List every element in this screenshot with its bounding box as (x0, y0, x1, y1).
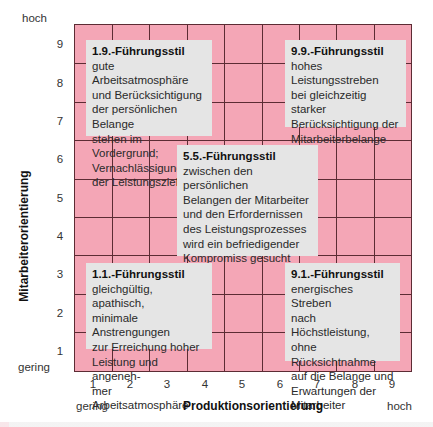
style-line: nach Höchstleistung, (291, 311, 394, 340)
clipped-caption (0, 422, 433, 427)
style-line: gleichgültig, apathisch, (92, 282, 206, 311)
style-line: bei gleichzeitig starker (291, 88, 400, 117)
style-line: gute Arbeitsatmosphäre (92, 59, 206, 88)
x-tick-1: 1 (83, 378, 103, 390)
x-tick-6: 6 (270, 378, 290, 390)
style-line: ohne Rücksichtnahme (291, 340, 394, 369)
x-tick-4: 4 (195, 378, 215, 390)
style-line: der persönlichen Belange (92, 102, 206, 131)
style-title: 9.1.-Führungsstil (291, 267, 394, 282)
y-tick-3: 3 (50, 268, 70, 280)
x-tick-7: 7 (307, 378, 327, 390)
y-axis-low-label: gering (18, 361, 50, 373)
style-line: zur Erreichung hoher (92, 340, 206, 355)
style-line: energisches Streben (291, 282, 394, 311)
x-axis-low-label: gering (76, 400, 108, 412)
style-line: minimale Anstrengungen (92, 311, 206, 340)
style-line: zwischen den persönlichen (183, 164, 312, 193)
y-tick-1: 1 (50, 345, 70, 357)
y-tick-8: 8 (50, 77, 70, 89)
x-tick-9: 9 (382, 378, 402, 390)
x-tick-5: 5 (232, 378, 252, 390)
style-line: hohes Leistungsstreben (291, 59, 400, 88)
style-line: wird ein befriedigender (183, 237, 312, 252)
x-axis-title: Produktionsorientierung (183, 399, 323, 413)
y-tick-6: 6 (50, 153, 70, 165)
style-box-1-9: 1.9.-Führungsstil gute Arbeitsatmosphäre… (86, 40, 212, 136)
style-box-9-1: 9.1.-Führungsstil energisches Streben na… (285, 263, 400, 361)
y-tick-7: 7 (50, 115, 70, 127)
style-line: Berücksichtigung der (291, 117, 400, 132)
style-line: und den Erfordernissen (183, 207, 312, 222)
style-line: Belangen der Mitarbeiter (183, 193, 312, 208)
y-tick-4: 4 (50, 230, 70, 242)
y-tick-2: 2 (50, 307, 70, 319)
style-title: 9.9.-Führungsstil (291, 44, 400, 59)
y-axis-title: Mitarbeiterorientierung (17, 170, 31, 301)
style-title: 1.9.-Führungsstil (92, 44, 206, 59)
x-tick-2: 2 (120, 378, 140, 390)
style-box-5-5: 5.5.-Führungsstil zwischen den persönlic… (177, 145, 318, 256)
x-tick-3: 3 (157, 378, 177, 390)
style-box-1-1: 1.1.-Führungsstil gleichgültig, apathisc… (86, 263, 212, 349)
style-title: 5.5.-Führungsstil (183, 149, 312, 164)
style-title: 1.1.-Führungsstil (92, 267, 206, 282)
style-line: Mitarbeiterbelange (291, 132, 400, 147)
style-line: und Berücksichtigung (92, 88, 206, 103)
style-box-9-9: 9.9.-Führungsstil hohes Leistungsstreben… (285, 40, 406, 127)
y-axis-high-label: hoch (22, 12, 47, 24)
x-tick-8: 8 (345, 378, 365, 390)
y-tick-9: 9 (50, 38, 70, 50)
y-tick-5: 5 (50, 192, 70, 204)
style-line: Leistung und angeneh- (92, 355, 206, 384)
style-line: des Leistungsprozesses (183, 222, 312, 237)
x-axis-high-label: hoch (387, 400, 412, 412)
